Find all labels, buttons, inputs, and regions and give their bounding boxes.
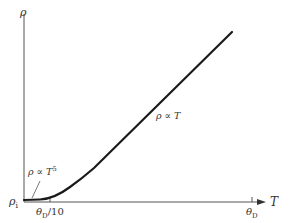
x-axis-arrow-icon — [257, 199, 266, 205]
y-axis-label: ρ — [20, 7, 26, 18]
annotation-leader-line — [32, 181, 40, 198]
tick-label-theta-d-10: θD/10 — [36, 207, 64, 220]
resistivity-diagram: ρ T ρi θD/10 θD ρ ∝ T5 ρ ∝ T — [0, 0, 302, 223]
annotation-high-t: ρ ∝ T — [156, 111, 180, 121]
x-axis-label: T — [270, 196, 278, 208]
tick-label-theta-d: θD — [246, 207, 258, 220]
residual-resistivity-label: ρi — [9, 196, 18, 210]
annotation-low-t: ρ ∝ T5 — [28, 166, 57, 177]
plot-canvas — [0, 0, 302, 223]
